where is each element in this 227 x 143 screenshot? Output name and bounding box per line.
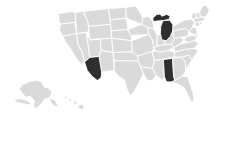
state-kansas[interactable] xyxy=(112,38,133,52)
state-texas[interactable] xyxy=(114,61,143,96)
state-maine[interactable] xyxy=(200,5,210,17)
hawaii-island-2 xyxy=(69,98,72,101)
us-choropleth-map xyxy=(0,0,227,143)
states-layer xyxy=(14,5,209,109)
alaska-aleutian-islands xyxy=(14,98,31,105)
state-wyoming[interactable] xyxy=(89,24,112,39)
alaska-panhandle xyxy=(50,97,59,106)
hawaii-big-island xyxy=(79,104,85,109)
state-hawaii[interactable] xyxy=(64,96,67,98)
state-south-dakota[interactable] xyxy=(110,18,128,31)
map-canvas xyxy=(0,0,227,143)
state-north-dakota[interactable] xyxy=(109,7,127,19)
state-arizona[interactable] xyxy=(85,56,102,80)
hawaii-island-3 xyxy=(73,101,77,105)
state-minnesota[interactable] xyxy=(126,6,143,24)
